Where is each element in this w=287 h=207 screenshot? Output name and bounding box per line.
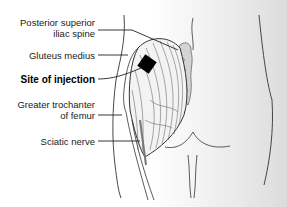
label-gluteus-medius: Gluteus medius bbox=[29, 50, 95, 61]
label-psis: Posterior superior iliac spine bbox=[20, 17, 95, 39]
inner-thigh-left bbox=[188, 155, 191, 198]
label-site-of-injection: Site of injection bbox=[21, 74, 95, 85]
left-hip-contour bbox=[113, 15, 125, 198]
gluteal-fold bbox=[165, 132, 230, 148]
label-greater-trochanter-line2: of femur bbox=[17, 110, 95, 121]
right-hip-contour bbox=[259, 15, 273, 185]
label-greater-trochanter-line1: Greater trochanter bbox=[17, 99, 95, 110]
label-psis-line1: Posterior superior bbox=[20, 17, 95, 28]
label-greater-trochanter: Greater trochanter of femur bbox=[17, 99, 95, 121]
label-psis-line2: iliac spine bbox=[20, 28, 95, 39]
label-sciatic-nerve: Sciatic nerve bbox=[41, 136, 95, 147]
inner-thigh-right bbox=[194, 155, 197, 198]
spine-line bbox=[192, 18, 193, 50]
